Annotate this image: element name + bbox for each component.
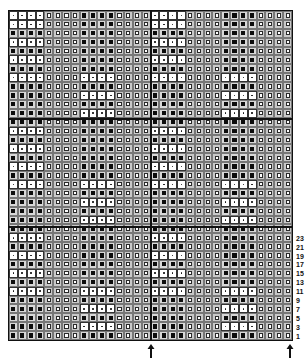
chart-cell-hatch [265,135,274,144]
chart-cell-hatch [71,296,80,305]
chart-cell-hatch [212,278,221,287]
chart-cell-hatch [115,20,124,29]
chart-cell-black [27,278,36,287]
chart-cell-hatch [212,109,221,118]
chart-cell-hatch [265,322,274,331]
chart-cell-hatch [53,109,62,118]
chart-cell-black [239,313,248,322]
chart-cell-hatch [212,64,221,73]
chart-cell-black [221,144,230,153]
chart-cell-hatch [53,313,62,322]
chart-cell-dot [239,91,248,100]
chart-cell-black [221,47,230,56]
chart-cell-hatch [124,47,133,56]
chart-cell-black [221,171,230,180]
chart-cell-black [27,216,36,225]
chart-cell-hatch [124,180,133,189]
chart-cell-dot [168,162,177,171]
row-number-label: 9 [296,296,300,305]
chart-cell-hatch [265,278,274,287]
chart-cell-black [239,29,248,38]
chart-cell-dot [89,180,98,189]
chart-cell-black [89,260,98,269]
chart-cell-hatch [115,47,124,56]
chart-cell-hatch [283,100,292,109]
chart-cell-hatch [115,260,124,269]
chart-cell-hatch [195,144,204,153]
chart-cell-dot [36,251,45,260]
chart-cell-hatch [283,91,292,100]
chart-cell-hatch [62,109,71,118]
chart-cell-hatch [133,171,142,180]
chart-cell-black [18,47,27,56]
chart-cell-black [177,109,186,118]
chart-cell-black [177,189,186,198]
chart-cell-dot [27,251,36,260]
chart-cell-dot [230,91,239,100]
chart-cell-hatch [44,82,53,91]
chart-cell-hatch [274,171,283,180]
chart-cell-hatch [283,135,292,144]
chart-cell-black [159,331,168,340]
chart-cell-black [230,313,239,322]
chart-cell-black [89,189,98,198]
chart-cell-black [159,171,168,180]
chart-cell-black [230,153,239,162]
chart-cell-dot [239,216,248,225]
chart-cell-hatch [195,242,204,251]
chart-cell-black [106,233,115,242]
chart-cell-hatch [62,251,71,260]
chart-cell-black [168,260,177,269]
chart-cell-black [27,331,36,340]
chart-cell-hatch [71,189,80,198]
chart-cell-hatch [204,82,213,91]
repeat-start-arrow-icon [146,343,156,359]
chart-cell-dot [97,109,106,118]
chart-cell-black [248,11,257,20]
chart-cell-hatch [124,82,133,91]
chart-cell-black [230,38,239,47]
chart-cell-black [18,216,27,225]
chart-cell-hatch [265,331,274,340]
chart-cell-black [159,153,168,162]
chart-cell-hatch [274,278,283,287]
chart-cell-hatch [115,38,124,47]
chart-cell-hatch [283,82,292,91]
chart-cell-hatch [186,127,195,136]
chart-cell-hatch [212,20,221,29]
chart-cell-black [168,304,177,313]
chart-cell-dot [168,180,177,189]
chart-cell-black [89,278,98,287]
chart-cell-hatch [62,278,71,287]
chart-cell-hatch [274,144,283,153]
chart-cell-hatch [274,251,283,260]
chart-cell-black [230,296,239,305]
chart-cell-dot [177,38,186,47]
chart-cell-dot [248,91,257,100]
chart-cell-hatch [115,29,124,38]
chart-cell-hatch [115,322,124,331]
chart-cell-hatch [124,233,133,242]
chart-cell-dot [106,216,115,225]
chart-cell-black [248,135,257,144]
chart-cell-hatch [71,153,80,162]
chart-cell-hatch [124,64,133,73]
chart-cell-hatch [257,29,266,38]
chart-cell-hatch [71,251,80,260]
chart-cell-black [27,135,36,144]
chart-cell-black [159,135,168,144]
chart-cell-black [80,47,89,56]
chart-cell-hatch [71,207,80,216]
chart-cell-hatch [212,82,221,91]
chart-cell-black [89,82,98,91]
chart-cell-black [89,64,98,73]
chart-cell-hatch [195,73,204,82]
chart-cell-hatch [124,29,133,38]
chart-cell-black [80,64,89,73]
chart-cell-hatch [283,287,292,296]
chart-cell-hatch [53,278,62,287]
chart-cell-hatch [53,91,62,100]
chart-cell-hatch [71,20,80,29]
chart-cell-black [36,189,45,198]
chart-cell-black [80,11,89,20]
